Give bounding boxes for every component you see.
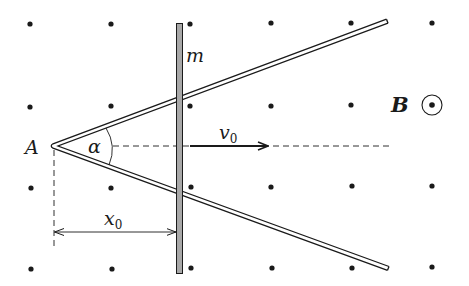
field-dot	[429, 20, 434, 25]
v-rails	[51, 19, 389, 270]
field-dot	[269, 265, 274, 270]
rail-outer-edge	[51, 19, 387, 270]
field-dot	[348, 20, 353, 25]
field-dot	[268, 20, 273, 25]
velocity-label: v0	[219, 121, 237, 146]
distance-symbol: x	[104, 207, 115, 229]
field-dot	[268, 103, 273, 108]
rod-mass-label: m	[186, 44, 204, 66]
sliding-rod	[177, 24, 183, 274]
field-dot	[268, 184, 273, 189]
field-dot	[28, 266, 33, 271]
field-dot	[187, 21, 192, 26]
field-dot	[108, 21, 113, 26]
velocity-symbol: v	[219, 121, 230, 143]
field-dot	[108, 103, 113, 108]
field-out-of-page-icon	[422, 95, 442, 115]
field-dot	[429, 183, 434, 188]
distance-subscript: 0	[115, 218, 123, 232]
apex-label: A	[23, 136, 39, 158]
field-dot	[187, 103, 192, 108]
field-dot	[27, 104, 32, 109]
field-dot	[349, 265, 354, 270]
physics-diagram: A α m v0 x0 B	[0, 0, 469, 286]
field-label: B	[390, 92, 409, 117]
distance-label: x0	[104, 207, 122, 232]
field-dot	[188, 265, 193, 270]
rail-inner-edge	[58, 23, 389, 266]
field-dot	[108, 185, 113, 190]
field-dot	[28, 185, 33, 190]
angle-arc	[106, 128, 112, 165]
field-dot	[348, 102, 353, 107]
field-dot	[429, 264, 434, 269]
field-dot	[109, 266, 114, 271]
angle-label: α	[88, 135, 101, 157]
field-dot	[27, 21, 32, 26]
velocity-subscript: 0	[230, 132, 238, 146]
field-dot	[188, 184, 193, 189]
field-dot	[349, 183, 354, 188]
